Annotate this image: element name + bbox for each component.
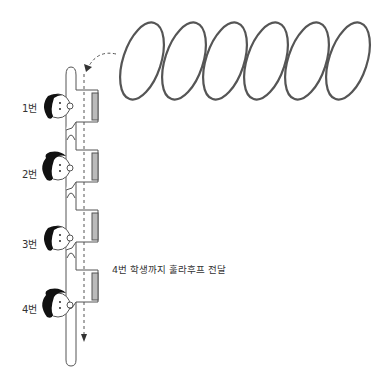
student-1-head-icon bbox=[44, 94, 73, 119]
student-2-head-icon bbox=[42, 152, 73, 181]
curved-arrow-icon bbox=[84, 53, 116, 72]
student-4-head-icon bbox=[42, 289, 73, 318]
student-2-label: 2번 bbox=[22, 166, 37, 181]
student-bodies bbox=[66, 90, 98, 310]
student-3-label: 3번 bbox=[22, 236, 37, 251]
hula-hoops bbox=[112, 17, 379, 105]
student-4-label: 4번 bbox=[22, 301, 37, 316]
caption: 4번 학생까지 훌라후프 전달 bbox=[112, 262, 226, 276]
student-1-label: 1번 bbox=[22, 100, 37, 115]
hula-hoop-relay-diagram bbox=[0, 0, 380, 367]
